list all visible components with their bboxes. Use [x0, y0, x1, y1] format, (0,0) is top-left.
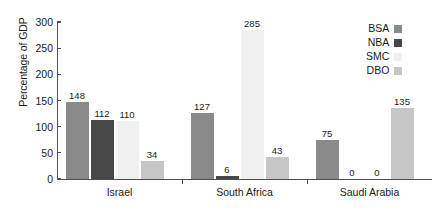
bar-value-label: 75 [322, 128, 333, 139]
y-axis-tick-label: 200 [25, 68, 53, 80]
legend-item[interactable]: BSA [366, 22, 402, 35]
legend-item-label: DBO [367, 65, 390, 76]
x-axis-separator-tick [182, 180, 183, 184]
y-axis-tick-label: 0 [25, 173, 53, 185]
chart-legend: BSANBASMCDBO [366, 22, 402, 77]
legend-item-label: BSA [368, 23, 389, 34]
legend-item-label: NBA [368, 37, 390, 48]
bar-value-label: 112 [94, 108, 109, 119]
bar: 285 [241, 30, 264, 179]
bar: 127 [191, 113, 214, 179]
legend-item[interactable]: NBA [366, 36, 402, 49]
bar-chart: Percentage of GDP 050100150200250300 148… [0, 0, 439, 210]
bar-value-label: 6 [224, 164, 229, 175]
y-axis-tick-label: 100 [25, 121, 53, 133]
y-axis-tick-label: 300 [25, 16, 53, 28]
bar-value-label: 34 [147, 149, 158, 160]
legend-color-swatch [394, 25, 402, 33]
bar-value-label: 127 [194, 101, 210, 112]
bar-value-label: 110 [119, 109, 134, 120]
x-axis-category-label: Saudi Arabia [340, 186, 400, 198]
bar: 34 [141, 161, 164, 179]
bar: 75 [316, 140, 339, 179]
x-axis-separator-tick [307, 180, 308, 184]
legend-item-label: SMC [366, 51, 389, 62]
legend-color-swatch [394, 53, 402, 61]
bar-value-label: 148 [69, 90, 85, 101]
bar-value-label: 43 [272, 145, 283, 156]
legend-color-swatch [394, 39, 402, 47]
legend-item[interactable]: SMC [366, 50, 402, 63]
bar: 110 [116, 121, 139, 179]
x-axis-line [57, 179, 432, 180]
x-axis-category-label: Israel [107, 186, 133, 198]
bar-value-label: 0 [349, 167, 354, 178]
bar-value-label: 285 [244, 18, 260, 29]
bar: 43 [266, 157, 289, 180]
legend-color-swatch [394, 67, 402, 75]
bar-value-label: 135 [394, 96, 410, 107]
bar: 112 [91, 120, 114, 179]
bar: 148 [66, 102, 89, 179]
bar-value-label: 0 [374, 167, 379, 178]
y-axis-tick-label: 150 [25, 95, 53, 107]
bar: 135 [391, 108, 414, 179]
legend-item[interactable]: DBO [366, 64, 402, 77]
y-axis-tick-label: 250 [25, 42, 53, 54]
y-axis-tick-label: 50 [25, 147, 53, 159]
x-axis-category-label: South Africa [216, 186, 273, 198]
